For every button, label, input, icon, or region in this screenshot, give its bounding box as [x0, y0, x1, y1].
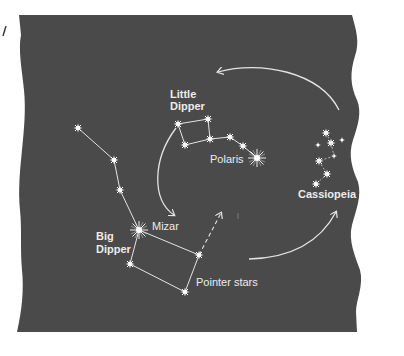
little-dipper-label-line1: Little	[170, 88, 196, 100]
mizar-label: Mizar	[152, 220, 179, 232]
sky-panel	[17, 15, 361, 332]
cassiopeia-label: Cassiopeia	[298, 188, 357, 200]
polaris-label: Polaris	[210, 153, 244, 165]
pointer-stars-label: Pointer stars	[196, 276, 258, 288]
big-dipper-label-line1: Big	[96, 230, 114, 242]
bright-star-icon	[130, 221, 148, 239]
corner-mark	[3, 26, 6, 36]
bright-star-icon	[248, 149, 266, 167]
little-dipper-label-line2: Dipper	[170, 100, 206, 112]
big-dipper-label-line2: Dipper	[96, 243, 132, 255]
night-sky-diagram: Little Dipper Polaris Cassiopeia Big Dip…	[0, 0, 404, 356]
